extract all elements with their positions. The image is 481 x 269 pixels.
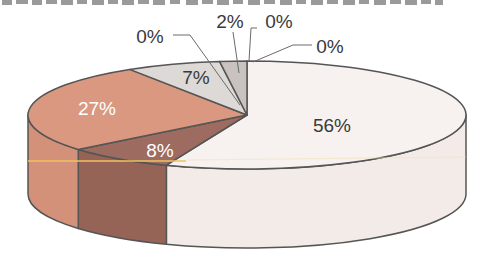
label-27pct: 27% — [78, 98, 116, 119]
pie-chart: 56% 8% 27% 7% 2% 0% 0% 0% — [0, 0, 481, 269]
leader-line-0pct-right — [253, 45, 312, 62]
label-0pct-right: 0% — [316, 36, 344, 57]
label-56pct: 56% — [313, 115, 351, 136]
leader-line-0pct-top — [249, 28, 257, 61]
cropped-caption — [2, 0, 443, 5]
label-0pct-top: 0% — [265, 11, 293, 32]
label-2pct: 2% — [216, 11, 244, 32]
label-8pct: 8% — [146, 140, 174, 161]
label-0pct-left: 0% — [136, 26, 164, 47]
label-7pct: 7% — [182, 67, 210, 88]
